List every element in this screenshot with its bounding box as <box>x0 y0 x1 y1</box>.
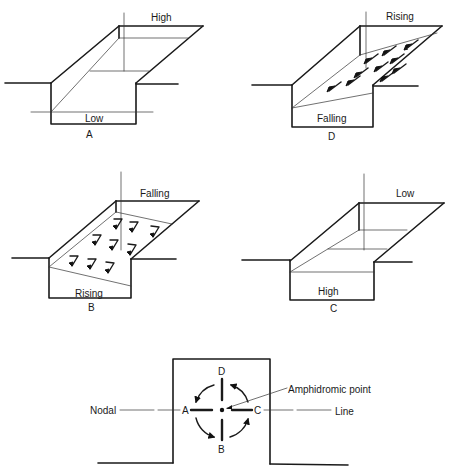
tide-oscillation-diagram: High Low A <box>0 0 452 470</box>
panel-a-top-label: High <box>151 12 172 23</box>
current-arrows-d <box>327 40 418 92</box>
panel-c-caption: C <box>330 303 337 314</box>
amphidromic-system: A B C D Amphidromic point Nodal Line <box>90 359 371 465</box>
panel-b-top-label: Falling <box>140 188 169 199</box>
panel-b-caption: B <box>88 302 95 313</box>
point-label-b: B <box>218 444 225 455</box>
panel-d: Rising Falling D <box>252 11 442 142</box>
amphidromic-point-dot <box>220 408 224 412</box>
panel-c: Low High C <box>242 174 444 314</box>
panel-a-caption: A <box>86 129 93 140</box>
panel-a-bottom-label: Low <box>85 113 104 124</box>
line-label: Line <box>335 406 354 417</box>
point-label-d: D <box>218 366 225 377</box>
amphidromic-point-label: Amphidromic point <box>288 384 371 395</box>
panel-c-top-label: Low <box>396 188 415 199</box>
point-label-a: A <box>182 405 189 416</box>
nodal-label: Nodal <box>90 405 116 416</box>
panel-b-bottom-label: Rising <box>75 288 103 299</box>
panel-a: High Low A <box>5 12 203 140</box>
panel-b: Falling Rising B <box>12 172 199 313</box>
panel-d-bottom-label: Falling <box>317 113 346 124</box>
panel-d-top-label: Rising <box>386 11 414 22</box>
point-label-c: C <box>254 405 261 416</box>
panel-d-caption: D <box>328 131 335 142</box>
panel-c-bottom-label: High <box>318 286 339 297</box>
